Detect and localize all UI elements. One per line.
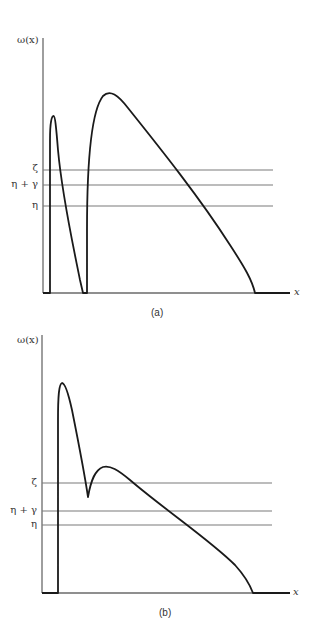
panel-a-x-axis-label: x	[294, 286, 300, 297]
panel-b	[42, 335, 290, 593]
panel-a-y-axis-label: ω(x)	[17, 34, 39, 45]
panel-a-caption: (a)	[151, 307, 163, 318]
panel-b-eta-label: η	[0, 518, 37, 529]
panel-b-y-axis-label: ω(x)	[17, 334, 39, 345]
panel-a-eta-gamma-label: η + γ	[0, 178, 38, 189]
panel-b-eta-gamma-label: η + γ	[0, 504, 37, 515]
panel-b-omega-curve	[42, 383, 290, 593]
panel-a-omega-curve	[43, 93, 290, 293]
panel-a-zeta-label: ζ	[0, 162, 38, 173]
panel-b-caption: (b)	[159, 607, 171, 618]
panel-a	[43, 38, 290, 293]
panel-a-eta-label: η	[0, 199, 38, 210]
panel-b-x-axis-label: x	[293, 586, 299, 597]
panel-b-zeta-label: ζ	[0, 476, 37, 487]
